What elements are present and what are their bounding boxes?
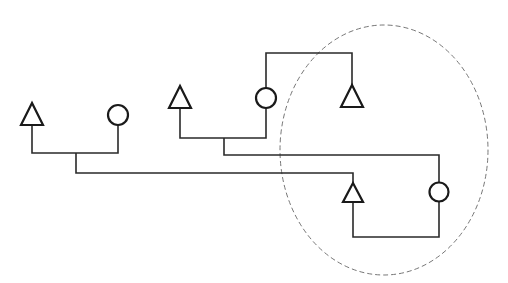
triangle-node-6 [343,183,363,202]
connector-left-to-n6 [76,153,353,183]
connectors [32,53,439,237]
triangle-node-5 [341,85,363,107]
connector-middle-to-n7 [224,138,439,182]
circle-node-7 [430,183,449,202]
connector-pair-middle [180,108,266,138]
circle-node-4 [256,88,276,108]
connector-n6-to-n7 [353,202,439,237]
diagram-canvas [0,0,508,283]
connector-pair-left [32,125,118,153]
circle-node-2 [108,105,128,125]
connector-n4-to-n5 [266,53,352,88]
triangle-node-3 [169,86,191,108]
triangle-node-1 [21,103,43,125]
